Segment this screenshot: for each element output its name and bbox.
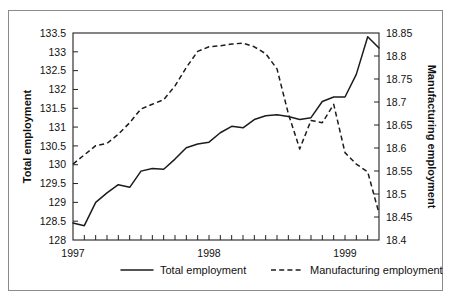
y-axis-tick-label: 130 (48, 158, 66, 170)
figure-frame: 128128.5129129.5130130.5131131.5132132.5… (8, 10, 443, 291)
y2-axis-tick-label: 18.4 (386, 234, 407, 246)
y-axis-tick-label: 129 (48, 196, 66, 208)
y-axis-tick-label: 133 (48, 46, 66, 58)
y2-axis-tick-label: 18.7 (386, 96, 407, 108)
y-axis-tick-label: 133.5 (40, 27, 66, 39)
y2-axis-tick-label: 18.6 (386, 142, 407, 154)
plot-frame (73, 33, 379, 240)
y-axis-tick-label: 132 (48, 83, 66, 95)
x-axis-tick-label: 1998 (197, 247, 221, 259)
y-axis-tick-label: 129.5 (40, 177, 66, 189)
y2-axis-tick-label: 18.85 (386, 27, 412, 39)
y2-axis-tick-label: 18.5 (386, 188, 407, 200)
y-axis-tick-label: 131.5 (40, 102, 66, 114)
y-axis-tick-label: 128.5 (40, 215, 66, 227)
series-line-dashed (73, 43, 379, 213)
chart-plot-area: 128128.5129129.5130130.5131131.5132132.5… (9, 11, 444, 292)
employment-line-chart: 128128.5129129.5130130.5131131.5132132.5… (9, 11, 444, 292)
y-axis-tick-label: 131 (48, 121, 66, 133)
series-line-solid (73, 37, 379, 226)
y-axis-tick-label: 128 (48, 234, 66, 246)
y-axis-tick-label: 130.5 (40, 140, 66, 152)
legend-label: Manufacturing employment (310, 264, 443, 276)
legend-label: Total employment (160, 264, 246, 276)
y2-axis-tick-label: 18.8 (386, 50, 407, 62)
y-axis-tick-label: 132.5 (40, 64, 66, 76)
x-axis-tick-label: 1997 (61, 247, 85, 259)
y2-axis-tick-label: 18.55 (386, 165, 412, 177)
x-axis-tick-label: 1999 (333, 247, 357, 259)
y2-axis-tick-label: 18.65 (386, 119, 412, 131)
y-axis-title: Total employment (21, 90, 33, 184)
y2-axis-tick-label: 18.45 (386, 211, 412, 223)
y2-axis-title: Manufacturing employment (426, 65, 438, 209)
y2-axis-tick-label: 18.75 (386, 73, 412, 85)
